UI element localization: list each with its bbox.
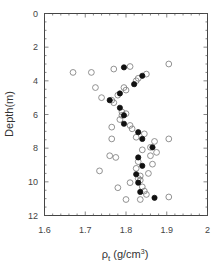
filled-data-point	[152, 195, 157, 200]
filled-data-point	[136, 180, 141, 185]
open-data-point	[152, 139, 158, 145]
filled-data-point	[117, 91, 122, 96]
filled-data-point	[140, 73, 145, 78]
open-data-point	[111, 66, 117, 72]
filled-data-point	[136, 155, 141, 160]
open-data-point	[93, 85, 99, 91]
open-data-point	[150, 161, 156, 167]
filled-data-point	[140, 163, 145, 168]
open-data-point	[137, 197, 143, 203]
filled-data-point	[132, 82, 137, 87]
open-data-point	[123, 197, 129, 203]
open-data-point	[127, 64, 133, 70]
open-data-point	[113, 155, 119, 161]
open-data-point	[97, 168, 103, 174]
y-tick-label: 4	[33, 76, 38, 86]
y-tick-label: 12	[28, 211, 38, 221]
open-data-point	[133, 134, 139, 140]
y-tick-label: 2	[33, 42, 38, 52]
filled-data-point	[107, 98, 112, 103]
open-data-point	[127, 123, 133, 129]
open-data-point	[99, 95, 105, 101]
filled-data-point	[121, 113, 126, 118]
x-tick-label: 1.6	[38, 225, 51, 235]
y-tick-labels: 024681012	[28, 9, 38, 221]
x-tick-label: 1.7	[79, 225, 92, 235]
filled-data-point	[121, 121, 126, 126]
open-data-point	[154, 149, 160, 155]
filled-data-point	[140, 136, 145, 141]
open-data-point	[109, 124, 115, 130]
y-tick-label: 10	[28, 177, 38, 187]
density-depth-chart: 1.61.71.81.92 024681012 Depth(m) ρt (g/c…	[0, 0, 217, 274]
open-data-point	[107, 153, 113, 159]
y-tick-label: 0	[33, 9, 38, 19]
y-tick-label: 8	[33, 143, 38, 153]
filled-data-point	[134, 172, 139, 177]
x-tick-label: 2	[205, 225, 210, 235]
filled-data-point	[117, 105, 122, 110]
y-axis-title: Depth(m)	[3, 91, 15, 137]
open-data-point	[133, 165, 139, 171]
filled-data-point	[121, 65, 126, 70]
filled-data-point	[138, 189, 143, 194]
open-data-point	[166, 136, 172, 142]
open-data-point	[166, 194, 172, 200]
data-points	[70, 61, 172, 202]
open-data-point	[70, 70, 76, 76]
x-axis-title-units: (g/cm	[110, 248, 141, 260]
filled-data-point	[150, 145, 155, 150]
x-tick-label: 1.9	[160, 225, 173, 235]
open-data-point	[143, 192, 149, 198]
open-data-point	[129, 126, 135, 132]
x-tick-label: 1.8	[120, 225, 133, 235]
filled-data-point	[136, 130, 141, 135]
open-data-point	[127, 180, 133, 186]
y-tick-label: 6	[33, 110, 38, 120]
open-data-point	[148, 153, 154, 159]
open-data-point	[139, 147, 145, 153]
open-data-point	[109, 136, 115, 142]
open-data-point	[146, 171, 152, 177]
open-data-point	[88, 70, 94, 76]
x-axis-title: ρt (g/cm3)	[102, 248, 149, 263]
open-data-point	[166, 61, 172, 67]
x-axis-title-close: )	[145, 248, 149, 260]
open-data-point	[115, 185, 121, 191]
open-data-point	[141, 131, 147, 137]
x-tick-labels: 1.61.71.81.92	[38, 225, 210, 235]
